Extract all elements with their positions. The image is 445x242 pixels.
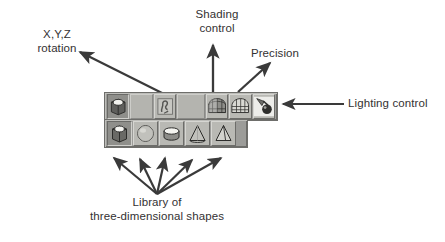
toolbar-button-blank-2[interactable] xyxy=(177,94,205,119)
pyramid-shape-icon xyxy=(213,123,234,144)
cube-shape-icon xyxy=(109,123,130,144)
shading-grid-icon xyxy=(207,96,227,117)
arrow-library-fan xyxy=(114,158,221,194)
toolbar-button-shading[interactable] xyxy=(206,94,228,119)
cylinder-shape-icon xyxy=(161,123,182,144)
precision-grid-icon xyxy=(230,96,250,117)
cone-shape-icon xyxy=(187,123,208,144)
lighting-icon xyxy=(254,96,274,117)
sphere-shape-icon xyxy=(135,123,156,144)
toolbar-button-blank-1[interactable] xyxy=(130,94,152,119)
shape-button-cube[interactable] xyxy=(107,121,132,146)
callout-label-lighting: Lighting control xyxy=(348,97,444,111)
depth-icon xyxy=(155,96,175,117)
callout-label-shading: Shading control xyxy=(168,8,266,35)
cube-rotation-icon xyxy=(108,96,128,117)
toolbar-button-depth[interactable] xyxy=(154,94,176,119)
shape-button-cone[interactable] xyxy=(185,121,210,146)
toolbar-button-rotation[interactable] xyxy=(107,94,129,119)
figure-canvas: X,Y,Z rotation Shading control Precision… xyxy=(0,0,445,242)
toolbar-shape-library xyxy=(104,119,248,148)
toolbar-button-precision[interactable] xyxy=(229,94,251,119)
shape-button-cylinder[interactable] xyxy=(159,121,184,146)
callout-label-library: Library of three-dimensional shapes xyxy=(50,196,264,223)
shape-button-pyramid[interactable] xyxy=(211,121,236,146)
callout-label-rotation: X,Y,Z rotation xyxy=(18,28,96,55)
toolbar-button-lighting[interactable] xyxy=(253,94,275,119)
callout-label-precision: Precision xyxy=(238,47,312,61)
shape-button-sphere[interactable] xyxy=(133,121,158,146)
arrow-precision xyxy=(238,63,270,92)
toolbar-3d-settings xyxy=(104,92,278,121)
